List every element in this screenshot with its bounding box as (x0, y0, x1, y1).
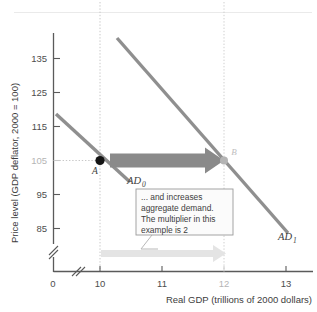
gdp-increase-arrow (101, 245, 226, 262)
x-tick-label-13: 13 (281, 278, 292, 289)
point-a-label: A (91, 166, 98, 176)
ad0-label-group: AD 0 (126, 175, 146, 189)
ad0-sublabel: 0 (142, 180, 146, 189)
x-tick-label-10: 10 (95, 278, 106, 289)
y-tick-label-85: 85 (36, 223, 47, 234)
ad1-label-group: AD 1 (277, 231, 297, 245)
y-tick-label-125: 125 (31, 87, 47, 98)
ad1-sublabel: 1 (293, 236, 297, 245)
note-line-1: ... and increases (141, 192, 202, 202)
x-tick-label-11: 11 (157, 278, 167, 289)
x-axis-title: Real GDP (trillions of 2000 dollars) (166, 294, 312, 305)
y-tick-label-135: 135 (31, 53, 47, 64)
ad1-label: AD (277, 231, 292, 242)
ad-shift-chart: 135 125 115 105 95 85 0 10 11 12 13 Pric… (0, 0, 317, 312)
chart-canvas: 135 125 115 105 95 85 0 10 11 12 13 Pric… (0, 0, 317, 312)
y-tick-label-105: 105 (31, 155, 47, 166)
ad0-label: AD (126, 175, 141, 186)
shift-arrow (110, 148, 224, 174)
x-tick-label-12: 12 (219, 278, 230, 289)
point-b-marker (220, 157, 228, 165)
y-tick-marks (54, 59, 61, 229)
x-tick-label-0: 0 (50, 278, 55, 289)
y-tick-label-115: 115 (32, 121, 47, 132)
note-line-4: example is 2 (141, 225, 188, 235)
point-a-marker (95, 156, 104, 165)
note-callout-pointer (141, 235, 158, 249)
note-line-2: aggregate demand. (141, 203, 214, 213)
y-tick-label-95: 95 (36, 189, 47, 200)
note-line-3: The multiplier in this (141, 214, 215, 224)
x-tick-marks (100, 266, 286, 272)
point-b-label: B (231, 147, 237, 157)
y-axis-title: Price level (GDP deflator, 2000 = 100) (9, 83, 20, 243)
